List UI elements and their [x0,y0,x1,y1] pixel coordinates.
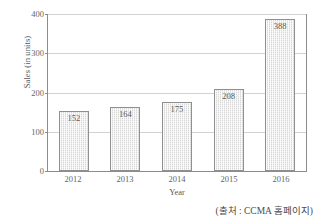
bar-slot: 388 [254,14,306,171]
bar-slot: 152 [48,14,100,171]
x-tick-label: 2013 [99,174,151,184]
x-axis-title: Year [47,187,307,197]
source-caption: (출처 : CCMA 홈페이지) [215,203,313,217]
bar-series: 152164175208388 [48,14,306,171]
y-tick-mark [45,171,48,172]
x-tick-label: 2014 [151,174,203,184]
bar: 152 [59,111,89,171]
x-tick-label: 2016 [255,174,307,184]
x-axis-tick-labels: 20122013201420152016 [47,174,307,184]
bar-value-label: 152 [67,114,80,123]
bar-value-label: 175 [171,105,184,114]
bar: 175 [162,102,192,171]
y-tick-label: 0 [40,166,44,176]
y-tick-label: 300 [31,48,44,58]
y-tick-label: 400 [31,9,44,19]
bar: 164 [110,107,140,171]
bar-value-label: 388 [274,22,287,31]
bar-slot: 175 [151,14,203,171]
y-axis-title: Sales (in units) [22,2,32,122]
x-tick-label: 2012 [47,174,99,184]
bar-value-label: 208 [222,92,235,101]
plot-area: 0100200300400 152164175208388 [47,14,307,172]
y-tick-label: 100 [31,127,44,137]
bar-chart-figure: Sales (in units) 0100200300400 152164175… [0,0,319,221]
y-tick-label: 200 [31,88,44,98]
bar-slot: 164 [100,14,152,171]
bar: 388 [265,19,295,171]
bar: 208 [214,89,244,171]
bar-slot: 208 [203,14,255,171]
bar-value-label: 164 [119,110,132,119]
x-tick-label: 2015 [203,174,255,184]
